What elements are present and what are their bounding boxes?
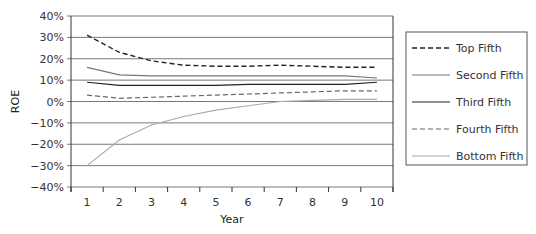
series-bottom-fifth — [87, 99, 377, 165]
line-chart: 40%30%20%10%0%−10%−20%−30%−40%1234567891… — [0, 0, 536, 234]
y-axis-title: ROE — [9, 90, 22, 113]
y-tick-label: −40% — [30, 181, 64, 194]
y-tick-label: 0% — [47, 96, 64, 109]
series-fourth-fifth — [87, 91, 377, 98]
legend: Top FifthSecond FifthThird FifthFourth F… — [406, 32, 527, 165]
y-tick-label: −10% — [30, 117, 64, 130]
x-tick-label: 10 — [370, 196, 384, 209]
x-tick-label: 7 — [277, 196, 284, 209]
series-second-fifth — [87, 67, 377, 78]
x-axis-title: Year — [219, 213, 244, 226]
legend-label: Bottom Fifth — [456, 150, 523, 163]
series-top-fifth — [87, 35, 377, 67]
x-tick-label: 1 — [84, 196, 91, 209]
x-tick-label: 9 — [341, 196, 348, 209]
y-tick-label: −30% — [30, 160, 64, 173]
y-tick-label: 10% — [40, 74, 64, 87]
x-tick-label: 2 — [116, 196, 123, 209]
legend-label: Top Fifth — [455, 42, 502, 55]
y-tick-label: −20% — [30, 138, 64, 151]
x-tick-label: 4 — [180, 196, 187, 209]
x-tick-label: 6 — [245, 196, 252, 209]
x-tick-label: 5 — [212, 196, 219, 209]
legend-label: Fourth Fifth — [456, 123, 519, 136]
y-tick-label: 40% — [40, 10, 64, 23]
legend-label: Second Fifth — [456, 69, 524, 82]
series-third-fifth — [87, 82, 377, 85]
x-tick-label: 3 — [148, 196, 155, 209]
x-tick-label: 8 — [309, 196, 316, 209]
y-tick-label: 30% — [40, 31, 64, 44]
y-tick-label: 20% — [40, 53, 64, 66]
legend-label: Third Fifth — [455, 96, 511, 109]
